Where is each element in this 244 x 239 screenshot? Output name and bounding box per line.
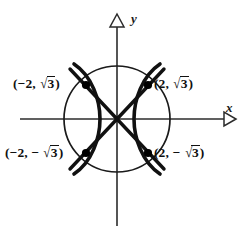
coordinate-label-bottom-right: (2, − √3) [154,145,204,160]
coordinate-label-top-right: (2, √3) [154,76,193,91]
label-prefix: (−2, [13,76,39,91]
radical-group: √3 [184,145,200,160]
point-marker-bottom-left [82,149,90,157]
x-axis-label: x [226,101,233,114]
label-suffix: ) [189,76,194,91]
label-suffix: ) [55,76,60,91]
radical-group: √3 [42,145,58,160]
math-figure: y x (−2, √3) (2, √3) (−2, − √3) (2, − √3… [0,0,244,239]
point-marker-bottom-right [144,149,152,157]
radical-group: √3 [39,76,55,91]
coordinate-label-bottom-left: (−2, − √3) [5,145,63,160]
radicand: 3 [47,76,56,91]
graph-canvas [0,0,244,239]
radicand: 3 [180,76,189,91]
point-marker-top-right [144,81,152,89]
label-prefix: (2, [154,76,172,91]
label-prefix: (2, − [154,145,184,160]
label-prefix: (−2, − [5,145,42,160]
coordinate-label-top-left: (−2, √3) [13,76,60,91]
y-axis-label: y [131,12,137,25]
radical-group: √3 [172,76,188,91]
label-suffix: ) [59,145,64,160]
label-suffix: ) [200,145,205,160]
point-marker-top-left [82,81,90,89]
radicand: 3 [191,145,200,160]
arrow-up-hollow-icon [110,14,124,27]
radicand: 3 [50,145,59,160]
